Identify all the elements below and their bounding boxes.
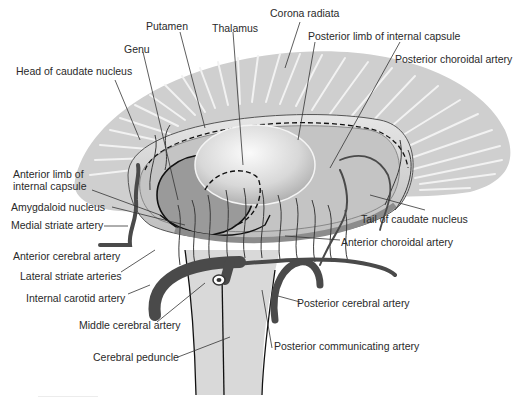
label-amygdaloid: Amygdaloid nucleus <box>11 201 105 213</box>
label-anterior-limb: Anterior limb of internal capsule <box>13 168 103 192</box>
figure-marker <box>38 396 98 397</box>
carotid-cross-section <box>213 275 225 285</box>
label-middle-cerebral: Middle cerebral artery <box>79 319 181 331</box>
label-cerebral-peduncle: Cerebral peduncle <box>93 351 179 363</box>
label-posterior-cerebral: Posterior cerebral artery <box>297 297 410 309</box>
label-head-caudate: Head of caudate nucleus <box>16 65 132 77</box>
label-putamen: Putamen <box>146 20 188 32</box>
label-anterior-cerebral: Anterior cerebral artery <box>13 250 120 262</box>
label-genu: Genu <box>124 43 150 55</box>
label-posterior-communicating: Posterior communicating artery <box>274 340 419 352</box>
label-corona-radiata: Corona radiata <box>270 7 339 19</box>
label-internal-carotid: Internal carotid artery <box>26 292 125 304</box>
label-posterior-limb: Posterior limb of internal capsule <box>308 30 460 42</box>
label-medial-striate: Medial striate artery <box>11 219 103 231</box>
label-thalamus: Thalamus <box>212 22 258 34</box>
label-posterior-choroidal: Posterior choroidal artery <box>395 53 512 65</box>
label-anterior-choroidal: Anterior choroidal artery <box>341 236 453 248</box>
label-lateral-striate: Lateral striate arteries <box>20 270 122 282</box>
label-tail-caudate: Tail of caudate nucleus <box>361 213 468 225</box>
